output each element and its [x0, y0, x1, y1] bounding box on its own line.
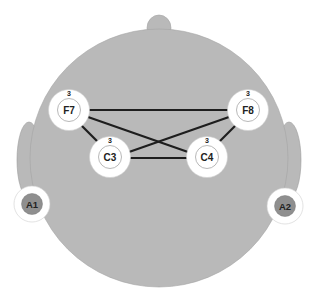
reference-electrode-a2[interactable]: A2 [267, 188, 303, 224]
electrode-label: C4 [201, 152, 214, 163]
electrode-label: F8 [242, 105, 254, 116]
connection-count: 3 [205, 137, 209, 144]
electrode-c4[interactable]: C43 [187, 137, 228, 178]
connection-count: 3 [67, 90, 71, 97]
reference-electrode-a1[interactable]: A1 [14, 186, 50, 222]
reference-label: A2 [279, 201, 291, 212]
electrode-f8[interactable]: F83 [228, 90, 269, 131]
connection-count: 3 [108, 137, 112, 144]
reference-label: A1 [26, 199, 39, 210]
electrode-label: F7 [63, 105, 75, 116]
electrode-c3[interactable]: C33 [90, 137, 131, 178]
electrode-f7[interactable]: F73 [49, 90, 90, 131]
electrode-label: C3 [104, 152, 117, 163]
connection-count: 3 [246, 90, 250, 97]
eeg-head-diagram: F73F83C33C43 A1A2 [0, 0, 318, 304]
